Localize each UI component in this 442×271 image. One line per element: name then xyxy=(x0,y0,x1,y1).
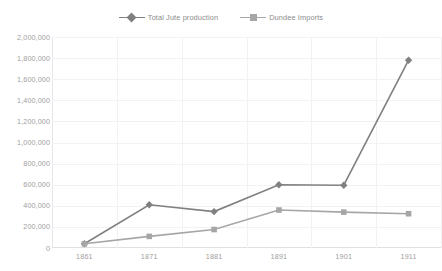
y-axis-tick-label: 400,000 xyxy=(2,201,50,210)
x-axis-tick-label: 1911 xyxy=(400,252,416,261)
legend-label-dundee-imports: Dundee Imports xyxy=(269,13,323,22)
gridline-vertical xyxy=(376,37,377,248)
y-axis-tick-label: 0 xyxy=(2,244,50,253)
legend-entry-total-jute-production[interactable]: Total Jute production xyxy=(119,12,218,22)
y-axis-tick-label: 1,800,000 xyxy=(2,54,50,63)
x-axis-tick-label: 1871 xyxy=(141,252,158,261)
chart-legend: Total Jute production Dundee Imports xyxy=(0,9,442,25)
square-marker-icon xyxy=(240,12,266,22)
y-axis-tick-label: 1,200,000 xyxy=(2,117,50,126)
y-axis-tick-label: 2,000,000 xyxy=(2,33,50,42)
legend-marker xyxy=(250,14,257,21)
x-axis-tick-label: 1861 xyxy=(76,252,93,261)
y-axis-tick-label: 1,600,000 xyxy=(2,75,50,84)
y-axis: 2,000,0001,800,0001,600,0001,400,0001,20… xyxy=(0,0,50,271)
gridline-vertical xyxy=(311,37,312,248)
plot-area xyxy=(52,37,441,248)
x-axis-tick-label: 1901 xyxy=(335,252,352,261)
y-axis-tick-label: 1,000,000 xyxy=(2,138,50,147)
x-axis-tick-label: 1881 xyxy=(206,252,223,261)
y-axis-tick-label: 200,000 xyxy=(2,222,50,231)
y-axis-tick-label: 600,000 xyxy=(2,180,50,189)
gridline-vertical xyxy=(117,37,118,248)
line-chart: Total Jute production Dundee Imports 2,0… xyxy=(0,0,442,271)
legend-marker xyxy=(127,12,137,22)
gridline-vertical xyxy=(182,37,183,248)
gridline-vertical xyxy=(247,37,248,248)
legend-entry-dundee-imports[interactable]: Dundee Imports xyxy=(240,12,323,22)
x-axis-tick-label: 1891 xyxy=(271,252,288,261)
legend-label-total-jute-production: Total Jute production xyxy=(148,13,218,22)
y-axis-tick-label: 800,000 xyxy=(2,159,50,168)
diamond-marker-icon xyxy=(119,12,145,22)
y-axis-tick-label: 1,400,000 xyxy=(2,96,50,105)
x-axis: 186118711881189119011911 xyxy=(52,252,441,266)
